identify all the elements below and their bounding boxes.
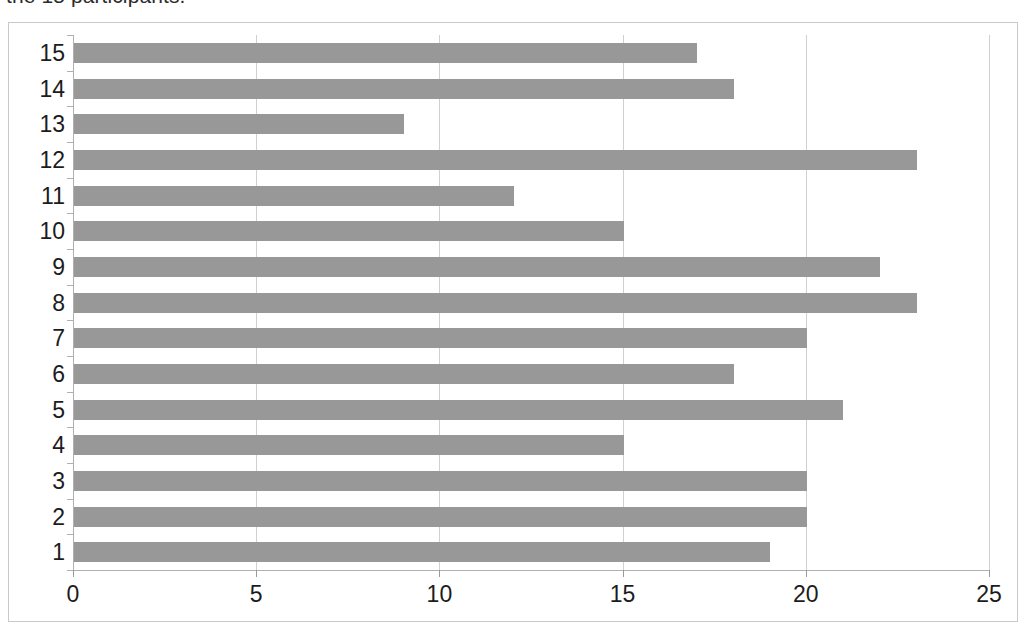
caption-strip: the 15 participants. <box>0 0 1026 20</box>
x-axis-label: 25 <box>976 583 1002 606</box>
y-axis-label: 3 <box>21 470 65 493</box>
y-axis-labels: 151413121110987654321 <box>17 35 65 570</box>
bar-slot <box>74 320 807 356</box>
y-axis-label: 11 <box>21 185 65 208</box>
y-axis-label: 12 <box>21 149 65 172</box>
x-axis-ticks <box>73 570 990 578</box>
bar[interactable] <box>74 507 807 527</box>
x-tick <box>256 570 257 577</box>
bar-slot <box>74 285 917 321</box>
y-tick <box>67 106 73 107</box>
bar[interactable] <box>74 400 843 420</box>
x-tick <box>806 570 807 577</box>
x-tick <box>439 570 440 577</box>
bar-slot <box>74 356 734 392</box>
bars-layer <box>74 35 989 570</box>
y-axis-label: 15 <box>21 42 65 65</box>
y-axis-label: 10 <box>21 220 65 243</box>
bar-slot <box>74 142 917 178</box>
bar[interactable] <box>74 79 734 99</box>
bar[interactable] <box>74 328 807 348</box>
y-axis-label: 8 <box>21 292 65 315</box>
bar[interactable] <box>74 186 514 206</box>
y-tick <box>67 427 73 428</box>
y-tick <box>67 285 73 286</box>
bar[interactable] <box>74 221 624 241</box>
y-tick <box>67 213 73 214</box>
y-tick <box>67 534 73 535</box>
y-axis-label: 5 <box>21 399 65 422</box>
x-tick <box>989 570 990 577</box>
y-tick <box>67 142 73 143</box>
bar[interactable] <box>74 435 624 455</box>
bar-slot <box>74 213 624 249</box>
x-tick <box>73 570 74 577</box>
y-axis-label: 6 <box>21 363 65 386</box>
y-axis-label: 9 <box>21 256 65 279</box>
chart-frame: 151413121110987654321 0510152025 <box>8 22 1018 622</box>
plot-area <box>73 35 989 570</box>
bar[interactable] <box>74 364 734 384</box>
x-axis-label: 15 <box>610 583 636 606</box>
y-tick <box>67 392 73 393</box>
bar-slot <box>74 534 770 570</box>
bar-slot <box>74 463 807 499</box>
bar[interactable] <box>74 471 807 491</box>
bar[interactable] <box>74 150 917 170</box>
x-axis-label: 5 <box>250 583 263 606</box>
y-tick <box>67 35 73 36</box>
bar-slot <box>74 249 880 285</box>
y-axis-label: 2 <box>21 506 65 529</box>
x-axis-label: 10 <box>427 583 453 606</box>
bar-slot <box>74 427 624 463</box>
x-axis-label: 20 <box>793 583 819 606</box>
y-tick <box>67 320 73 321</box>
y-axis-label: 14 <box>21 78 65 101</box>
caption-text: the 15 participants. <box>6 0 185 8</box>
bar[interactable] <box>74 542 770 562</box>
gridline-25 <box>989 35 990 570</box>
bar[interactable] <box>74 43 697 63</box>
y-axis-label: 1 <box>21 541 65 564</box>
y-tick <box>67 71 73 72</box>
x-axis-labels: 0510152025 <box>73 583 990 615</box>
y-tick <box>67 249 73 250</box>
y-tick <box>67 356 73 357</box>
x-axis-label: 0 <box>67 583 80 606</box>
y-tick <box>67 178 73 179</box>
bar[interactable] <box>74 293 917 313</box>
bar-slot <box>74 35 697 71</box>
bar-slot <box>74 71 734 107</box>
y-axis-label: 7 <box>21 327 65 350</box>
y-axis-label: 13 <box>21 113 65 136</box>
y-axis-label: 4 <box>21 434 65 457</box>
y-tick <box>67 463 73 464</box>
bar[interactable] <box>74 114 404 134</box>
bar[interactable] <box>74 257 880 277</box>
bar-slot <box>74 178 514 214</box>
x-tick <box>623 570 624 577</box>
bar-slot <box>74 499 807 535</box>
bar-slot <box>74 106 404 142</box>
y-tick <box>67 499 73 500</box>
bar-slot <box>74 392 843 428</box>
